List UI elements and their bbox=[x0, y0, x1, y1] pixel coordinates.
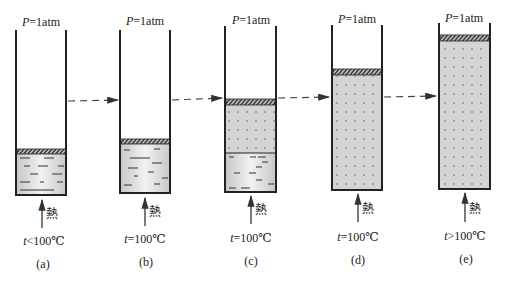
transition-arrow-d-e-icon bbox=[384, 96, 436, 97]
cylinder-c bbox=[225, 26, 276, 224]
transition-arrow-b-c-icon bbox=[172, 98, 222, 100]
cylinder-e bbox=[439, 23, 490, 222]
pressure-label-c: P=1atm bbox=[232, 14, 270, 26]
caption-a: (a) bbox=[36, 258, 49, 270]
transition-arrow-c-d-icon bbox=[278, 97, 329, 98]
pressure-label-e: P=1atm bbox=[445, 12, 483, 24]
heat-label-e: 熱 bbox=[469, 203, 481, 215]
pressure-label-a: P=1atm bbox=[22, 16, 60, 28]
heat-label-d: 熱 bbox=[362, 203, 374, 215]
cylinder-a bbox=[16, 30, 66, 228]
caption-d: (d) bbox=[351, 254, 365, 266]
piston bbox=[440, 35, 489, 41]
vapor bbox=[226, 105, 275, 153]
temperature-label-a: t<100℃ bbox=[23, 235, 65, 247]
caption-b: (b) bbox=[139, 256, 153, 268]
temperature-label-d: t=100℃ bbox=[337, 231, 379, 243]
heat-label-b: 熱 bbox=[149, 206, 161, 218]
vapor bbox=[333, 75, 382, 190]
temperature-label-b: t=100℃ bbox=[124, 233, 166, 245]
transition-arrow-a-b-icon bbox=[68, 100, 118, 101]
cylinder-b bbox=[120, 30, 170, 226]
pressure-label-b: P=1atm bbox=[126, 15, 164, 27]
caption-c: (c) bbox=[244, 255, 257, 267]
piston bbox=[121, 139, 170, 144]
cylinder-d bbox=[332, 25, 382, 222]
piston bbox=[226, 99, 275, 105]
heat-label-a: 熱 bbox=[46, 208, 58, 220]
heat-label-c: 熱 bbox=[255, 204, 267, 216]
piston bbox=[17, 149, 66, 154]
caption-e: (e) bbox=[459, 253, 472, 265]
pressure-label-d: P=1atm bbox=[338, 13, 376, 25]
temperature-label-c: t=100℃ bbox=[230, 232, 272, 244]
vapor bbox=[440, 41, 489, 189]
piston bbox=[333, 69, 382, 75]
temperature-label-e: t>100℃ bbox=[444, 230, 486, 242]
